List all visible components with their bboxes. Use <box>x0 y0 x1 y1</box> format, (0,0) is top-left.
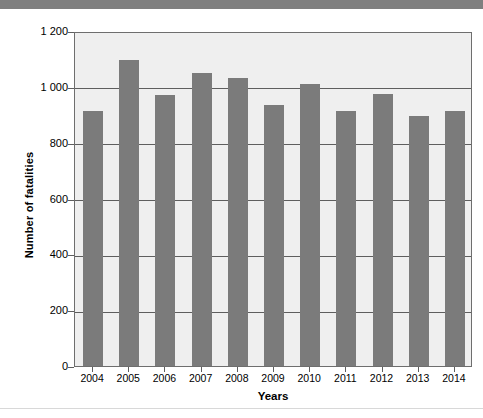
y-axis-tick-label: 600 <box>8 194 68 205</box>
y-axis-tick-label: 800 <box>8 138 68 149</box>
x-axis-title: Years <box>74 390 472 402</box>
bar[interactable] <box>83 111 103 366</box>
x-axis-tick-mark <box>164 367 165 372</box>
y-axis-tick-mark <box>68 88 74 89</box>
y-axis-tick-label: 200 <box>8 305 68 316</box>
x-axis-tick-label: 2013 <box>398 372 438 384</box>
bar[interactable] <box>264 105 284 366</box>
bar[interactable] <box>336 111 356 366</box>
x-axis-tick-label: 2010 <box>289 372 329 384</box>
x-axis-tick-label: 2004 <box>72 372 112 384</box>
y-axis-tick-labels: 02004006008001 0001 200 <box>4 9 68 409</box>
x-axis-tick-mark <box>382 367 383 372</box>
x-axis-tick-mark <box>92 367 93 372</box>
x-axis-tick-label: 2006 <box>144 372 184 384</box>
y-axis-tick-label: 1 000 <box>8 82 68 93</box>
bar[interactable] <box>192 73 212 366</box>
x-axis-tick-mark <box>237 367 238 372</box>
bar-series <box>75 33 471 366</box>
bar[interactable] <box>300 84 320 366</box>
top-gray-band <box>0 0 483 9</box>
y-axis-tick-mark <box>68 255 74 256</box>
bar-chart: Number of fatalities 02004006008001 0001… <box>0 9 483 408</box>
plot-area <box>74 32 472 367</box>
bar[interactable] <box>445 111 465 366</box>
x-axis-tick-mark <box>454 367 455 372</box>
x-axis-tick-mark <box>201 367 202 372</box>
x-axis-tick-mark <box>128 367 129 372</box>
y-axis-tick-label: 1 200 <box>8 26 68 37</box>
x-axis-tick-label: 2009 <box>253 372 293 384</box>
y-axis-tick-mark <box>68 144 74 145</box>
x-axis-tick-label: 2007 <box>181 372 221 384</box>
x-axis-tick-label: 2012 <box>362 372 402 384</box>
y-axis-tick-mark <box>68 32 74 33</box>
x-axis-tick-label: 2014 <box>434 372 474 384</box>
y-axis-tick-label: 400 <box>8 249 68 260</box>
bar[interactable] <box>155 95 175 366</box>
footer-divider <box>0 408 483 409</box>
x-axis-tick-label: 2005 <box>108 372 148 384</box>
y-axis-tick-mark <box>68 367 74 368</box>
x-axis-tick-mark <box>309 367 310 372</box>
x-axis-tick-mark <box>273 367 274 372</box>
x-axis-tick-label: 2008 <box>217 372 257 384</box>
y-axis-tick-mark <box>68 200 74 201</box>
x-axis-tick-label: 2011 <box>325 372 365 384</box>
bar[interactable] <box>119 60 139 366</box>
bar[interactable] <box>373 94 393 366</box>
x-axis-tick-mark <box>345 367 346 372</box>
bar[interactable] <box>228 78 248 366</box>
x-axis-tick-mark <box>418 367 419 372</box>
bar[interactable] <box>409 116 429 366</box>
y-axis-tick-label: 0 <box>8 361 68 372</box>
y-axis-tick-mark <box>68 311 74 312</box>
